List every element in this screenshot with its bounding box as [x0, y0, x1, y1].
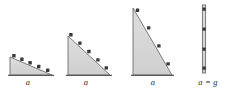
vertical-bar-4: [202, 5, 205, 73]
panel-label-4: a = g: [182, 78, 225, 87]
panel-1-ramp: [8, 54, 54, 75]
panel-3-ramp: [131, 8, 174, 75]
panel-label-2: a: [58, 78, 114, 87]
incline-triangle-3: [133, 8, 172, 75]
incline-triangle-2: [68, 36, 110, 75]
panel-4-vertical: [202, 5, 205, 73]
incline-triangle-1: [10, 57, 52, 75]
panel-label-1: a: [0, 78, 56, 87]
panel-2-ramp: [66, 33, 112, 75]
inclined-plane-figure: a a a a = g: [0, 0, 225, 94]
panel-label-3: a: [125, 78, 181, 87]
